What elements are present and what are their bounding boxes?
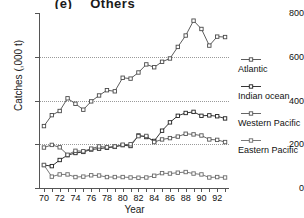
data-point (176, 45, 179, 48)
data-point (113, 90, 116, 93)
data-point (152, 66, 155, 69)
chart-legend: AtlanticIndian oceanWestern PacificEaste… (236, 54, 304, 162)
data-point (168, 172, 171, 175)
x-tick-label: 84 (146, 194, 162, 203)
legend-marker-icon (241, 110, 261, 117)
legend-label: Atlantic (238, 64, 268, 74)
x-tick-label: 86 (162, 194, 178, 203)
data-point (89, 100, 92, 103)
data-point (82, 175, 85, 178)
data-point (97, 145, 100, 148)
x-axis-label: Year (40, 204, 229, 215)
data-point (50, 164, 53, 167)
data-point (192, 110, 195, 113)
data-point (66, 173, 69, 176)
x-tick-label: 80 (115, 194, 131, 203)
data-point (215, 138, 218, 141)
data-point (208, 176, 211, 179)
data-point (89, 147, 92, 150)
data-point (82, 108, 85, 111)
data-point (192, 19, 195, 22)
data-point (192, 172, 195, 175)
data-point (184, 34, 187, 37)
data-point (160, 129, 163, 132)
data-point (145, 134, 148, 137)
data-point (184, 170, 187, 173)
series-indian-ocean (42, 110, 227, 168)
data-point (42, 124, 45, 127)
data-point (160, 138, 163, 141)
legend-item-western-pacific[interactable]: Western Pacific (236, 108, 304, 135)
series-eastern-pacific (42, 163, 227, 179)
data-point (97, 174, 100, 177)
x-tick-label: 88 (178, 194, 194, 203)
data-point (152, 140, 155, 143)
data-point (168, 57, 171, 60)
data-point (58, 109, 61, 112)
legend-item-atlantic[interactable]: Atlantic (236, 54, 304, 81)
data-point (113, 175, 116, 178)
data-point (215, 115, 218, 118)
data-point (74, 149, 77, 152)
data-point (105, 89, 108, 92)
data-point (176, 135, 179, 138)
data-point (223, 35, 226, 38)
data-point (121, 175, 124, 178)
data-point (58, 146, 61, 149)
data-point (145, 63, 148, 66)
data-point (160, 60, 163, 63)
data-point (137, 71, 140, 74)
data-point (176, 171, 179, 174)
series-western-pacific (42, 132, 227, 156)
data-point (50, 175, 53, 178)
legend-label: Indian ocean (238, 91, 290, 101)
data-point (97, 94, 100, 97)
data-point (215, 35, 218, 38)
data-point (208, 138, 211, 141)
legend-marker-icon (241, 137, 261, 144)
x-tick-label: 92 (209, 194, 225, 203)
data-point (223, 176, 226, 179)
data-point (200, 134, 203, 137)
x-tick-label: 82 (130, 194, 146, 203)
x-tick-label: 90 (193, 194, 209, 203)
data-point (74, 175, 77, 178)
y-tick-label: 800 (270, 9, 304, 18)
data-point (223, 117, 226, 120)
data-point (66, 153, 69, 156)
chart-figure: (e)Others 0200400600800 7072747678808284… (0, 0, 304, 218)
data-point (192, 133, 195, 136)
data-point (42, 163, 45, 166)
legend-label: Western Pacific (238, 118, 300, 128)
data-point (168, 136, 171, 139)
data-point (113, 145, 116, 148)
data-point (89, 174, 92, 177)
data-point (184, 111, 187, 114)
data-point (208, 114, 211, 117)
x-tick-label: 78 (99, 194, 115, 203)
data-point (58, 158, 61, 161)
chart-title: (e)Others (0, 0, 190, 9)
x-tick-label: 74 (67, 194, 83, 203)
y-tick-label: 0 (270, 184, 304, 193)
data-point (129, 176, 132, 179)
data-point (215, 175, 218, 178)
data-point (105, 146, 108, 149)
data-point (176, 114, 179, 117)
series-atlantic (42, 19, 227, 128)
data-point (152, 174, 155, 177)
title-text: Others (90, 0, 135, 9)
data-point (129, 77, 132, 80)
legend-item-eastern-pacific[interactable]: Eastern Pacific (236, 135, 304, 162)
data-point (200, 173, 203, 176)
data-point (42, 146, 45, 149)
data-point (223, 140, 226, 143)
data-point (58, 173, 61, 176)
data-point (137, 134, 140, 137)
data-point (50, 143, 53, 146)
legend-label: Eastern Pacific (238, 145, 298, 155)
legend-marker-icon (241, 83, 261, 90)
legend-item-indian-ocean[interactable]: Indian ocean (236, 81, 304, 108)
data-point (82, 150, 85, 153)
data-point (50, 113, 53, 116)
